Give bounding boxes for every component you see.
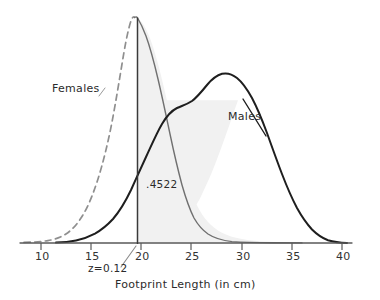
males-curve-label: Males (228, 110, 261, 123)
footprint-length-distribution-chart: 10 15 20 25 30 35 40 Females Males .4522… (0, 0, 380, 300)
x-axis-ticks (41, 243, 342, 250)
x-tick-label-35: 35 (286, 250, 301, 263)
x-tick-label-40: 40 (336, 250, 351, 263)
shaded-area-label: .4522 (146, 178, 178, 190)
x-tick-label-30: 30 (236, 250, 251, 263)
females-curve (24, 17, 135, 242)
x-axis-title: Footprint Length (in cm) (115, 278, 256, 291)
females-leader-line (99, 88, 105, 96)
z-score-label: z=0.12 (88, 262, 128, 274)
females-curve-label: Females (52, 82, 100, 95)
x-tick-label-20: 20 (135, 250, 150, 263)
x-tick-label-25: 25 (185, 250, 200, 263)
x-tick-label-10: 10 (35, 250, 50, 263)
